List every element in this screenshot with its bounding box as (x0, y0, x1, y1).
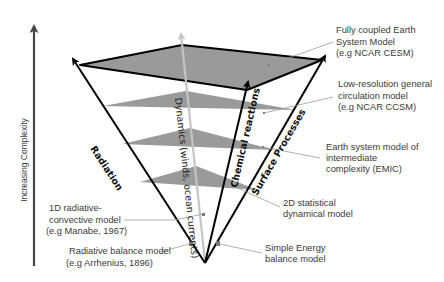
surface-processes-label: Surface Processes (249, 106, 308, 197)
radiation-label: Radiation (88, 144, 125, 193)
label-2d-sd: 2D statistical dynamical model (283, 198, 353, 219)
label-rad-balance: Radiative balance model (e.g Arrhenius, … (66, 246, 173, 268)
complexity-axis-label: Increasing Complexity (19, 117, 29, 201)
leader-seb (220, 244, 262, 253)
label-1d-rc: 1D radiative- convective model (e.g Mana… (46, 203, 127, 236)
label-low-res-gcm: Low-resolution general circulation model… (338, 79, 435, 112)
label-seb: Simple Energy balance model (265, 243, 328, 264)
label-emic: Earth system model of intermediate compl… (326, 142, 421, 174)
climate-model-pyramid-diagram: Increasing Complexity Radiation Dynamics… (0, 0, 444, 282)
dot-seb (216, 241, 220, 246)
complexity-axis: Increasing Complexity (19, 26, 34, 266)
label-fully-coupled: Fully coupled Earth System Model (e.g NC… (336, 25, 418, 58)
plane-fully-coupled (80, 45, 322, 90)
plane-low-res-gcm (103, 91, 296, 110)
